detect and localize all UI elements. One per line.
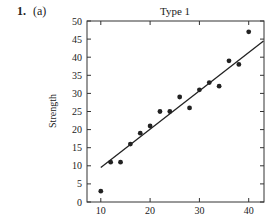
data-point xyxy=(118,160,123,165)
plot-frame xyxy=(87,21,264,202)
y-tick-label: 0 xyxy=(77,197,82,208)
data-point xyxy=(177,95,182,100)
data-point xyxy=(98,189,103,194)
y-tick-label: 10 xyxy=(72,160,82,171)
chart-title: Type 1 xyxy=(160,5,190,17)
data-point xyxy=(236,62,241,67)
x-tick-label: 40 xyxy=(244,205,254,216)
y-axis-label: Strength xyxy=(47,94,58,128)
y-tick-label: 20 xyxy=(72,124,82,135)
data-points xyxy=(98,29,251,193)
regression-line xyxy=(101,41,264,168)
y-tick-label: 30 xyxy=(72,88,82,99)
data-point xyxy=(187,105,192,110)
data-point xyxy=(158,109,163,114)
data-point xyxy=(217,84,222,89)
y-tick-label: 50 xyxy=(72,16,82,27)
scatter-chart: Type 1 Strength 051015202530354045501020… xyxy=(0,0,280,216)
y-tick-label: 35 xyxy=(72,70,82,81)
x-tick-label: 10 xyxy=(96,205,106,216)
data-point xyxy=(227,58,232,63)
x-tick-label: 20 xyxy=(145,205,155,216)
y-tick-label: 15 xyxy=(72,142,82,153)
y-tick-label: 40 xyxy=(72,52,82,63)
y-tick-label: 45 xyxy=(72,34,82,45)
x-tick-label: 30 xyxy=(194,205,204,216)
data-point xyxy=(246,29,251,34)
y-tick-label: 5 xyxy=(77,178,82,189)
y-tick-label: 25 xyxy=(72,106,82,117)
